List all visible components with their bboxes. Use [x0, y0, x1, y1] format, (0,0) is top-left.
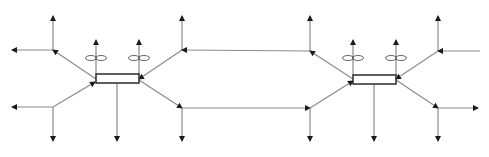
arrow-edge — [182, 50, 310, 51]
arrow-edge — [139, 50, 182, 79]
hub-box-right — [353, 75, 396, 84]
arrow-edge — [396, 80, 438, 108]
arrow-edge — [53, 82, 95, 107]
flow-diagram — [0, 0, 489, 157]
propellers-layer — [86, 56, 407, 61]
arrow-edge — [53, 50, 96, 79]
hub-box-left — [96, 74, 139, 83]
edges-layer — [12, 16, 480, 141]
arrow-edge — [310, 81, 353, 108]
arrow-edge — [139, 80, 182, 108]
